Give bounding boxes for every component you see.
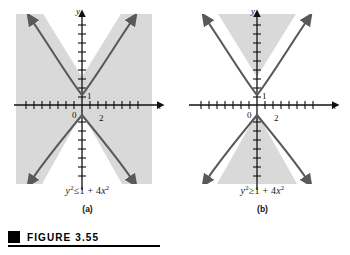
origin-label-a: 0 — [72, 110, 77, 120]
equation-a-rhs-const: 1 + 4 — [80, 185, 102, 196]
panel-b-sublabel: (b) — [175, 204, 350, 214]
plot-b: x y 0 1 2 — [175, 0, 350, 200]
panel-a-sublabel: (a) — [0, 204, 175, 214]
figure-caption: FIGURE 3.55 — [8, 231, 168, 243]
equation-a: y2≤1 + 4x2 — [0, 185, 175, 196]
panel-b: x y 0 1 2 y2≥1 + 4x2 (b) — [175, 0, 350, 200]
figure-caption-label: FIGURE 3.55 — [27, 232, 99, 243]
y-axis-label-a: y — [75, 6, 80, 16]
x-tick-label-a: 2 — [99, 113, 104, 123]
square-bullet-icon — [8, 231, 20, 243]
equation-b-rhs-const: 1 + 4 — [255, 185, 277, 196]
plot-a: x y 0 1 2 — [0, 0, 175, 200]
origin-label-b: 0 — [247, 110, 252, 120]
y-tick-label-a: 1 — [87, 91, 92, 101]
panel-a: x y 0 1 2 y2≤1 + 4x2 (a) — [0, 0, 175, 200]
equation-a-rhs-exp: 2 — [106, 184, 110, 191]
x-tick-label-b: 2 — [274, 113, 279, 123]
y-tick-label-b: 1 — [262, 91, 267, 101]
x-axis-label-a: x — [156, 101, 161, 111]
caption-underline-rule — [8, 245, 160, 247]
x-axis-label-b: x — [331, 101, 336, 111]
y-axis-label-b: y — [250, 6, 255, 16]
equation-b-rhs-exp: 2 — [281, 184, 285, 191]
figure-container: x y 0 1 2 y2≤1 + 4x2 (a) — [0, 0, 350, 255]
equation-b: y2≥1 + 4x2 — [175, 185, 350, 196]
